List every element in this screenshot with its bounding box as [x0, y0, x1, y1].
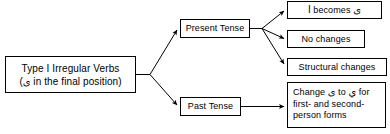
node-present-tense[interactable]: Present Tense — [180, 19, 250, 38]
edge-present-to-nochanges — [262, 29, 284, 39]
alef-becomes-ya-label: ا becomes ى — [308, 4, 361, 16]
edge-root-to-past — [150, 75, 177, 106]
node-type-i-irregular-verbs[interactable]: Type I Irregular Verbs (ى in the final p… — [5, 56, 136, 93]
edge-present-to-structural — [262, 29, 284, 65]
root-line2-text: in the final position) — [31, 76, 122, 87]
edge-root-to-present — [150, 30, 177, 75]
arabic-alef-maksura-icon: ى — [23, 76, 31, 87]
root-label-line2: (ى in the final position) — [6, 75, 135, 88]
change-text-part2: to — [336, 87, 349, 97]
change-rule-label: Change ى to ي for first- and second-pers… — [293, 87, 370, 120]
node-alef-becomes-ya[interactable]: ا becomes ى — [287, 1, 382, 19]
node-structural-changes[interactable]: Structural changes — [287, 58, 387, 76]
node-past-tense[interactable]: Past Tense — [180, 97, 241, 116]
becomes-text: becomes — [311, 5, 353, 15]
flowchart-diagram: Type I Irregular Verbs (ى in the final p… — [0, 0, 390, 134]
node-change-ya-to-ya[interactable]: Change ى to ي for first- and second-pers… — [287, 82, 386, 128]
past-tense-label: Past Tense — [188, 101, 233, 112]
structural-changes-label: Structural changes — [299, 62, 376, 73]
no-changes-label: No changes — [301, 34, 350, 45]
edge-present-to-alef — [262, 11, 284, 29]
arabic-alef-maksura-source-icon: ى — [328, 86, 336, 97]
node-no-changes[interactable]: No changes — [287, 30, 365, 48]
root-label-line1: Type I Irregular Verbs — [6, 62, 135, 75]
present-tense-label: Present Tense — [186, 23, 245, 34]
change-text-part1: Change — [293, 87, 328, 97]
arabic-ya-icon: ى — [353, 4, 361, 15]
